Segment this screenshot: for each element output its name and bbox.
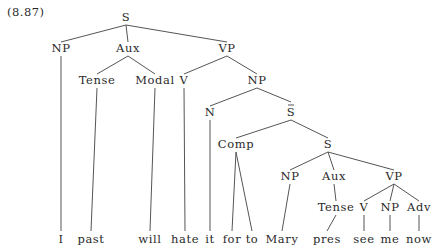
tree-edge [232,152,236,231]
tree-edge [290,152,328,170]
tree-node-modal: Modal [135,73,175,87]
tree-edge [257,88,291,102]
tree-node-adv: Adv [406,200,431,214]
leaf-word: pres [313,232,341,246]
syntax-tree: SNPAuxVPTenseModalVNPNSCompSNPAuxVPTense… [0,0,441,252]
tree-node-vp: VP [217,41,235,55]
tree-edge [150,88,155,231]
leaf-word: to [246,232,259,246]
leaf-word: I [58,232,63,246]
tree-edge [97,56,128,74]
tree-edge [210,88,257,106]
tree-edge [364,184,394,201]
tree-node-np: NP [280,169,299,183]
tree-edge [328,152,334,170]
tree-edge [227,56,257,74]
tree-node-np: NP [247,73,266,87]
tree-node-np: NP [380,200,399,214]
tree-node-np: NP [51,41,70,55]
tree-edge [61,25,126,42]
leaf-word: will [138,232,161,246]
tree-leaves: IpastwillhateitfortoMarypresseemenow [58,232,432,246]
tree-node-comp: Comp [218,137,254,151]
tree-edge [291,120,328,138]
tree-node-v: V [179,73,189,87]
tree-edge [236,152,252,231]
tree-edge [184,56,227,74]
leaf-word: me [381,232,400,246]
tree-node-v: V [359,200,369,214]
tree-node-vp: VP [384,169,402,183]
tree-node-tense: Tense [318,200,355,214]
tree-edge [282,184,290,231]
tree-nodes: SNPAuxVPTenseModalVNPNSCompSNPAuxVPTense… [51,10,430,214]
tree-node-s-bar: S [287,105,295,119]
tree-edge [184,88,185,231]
tree-edge [327,215,336,231]
tree-node-s: S [122,10,130,24]
leaf-word: hate [171,232,199,246]
tree-node-tense: Tense [79,73,116,87]
tree-edge [236,120,291,138]
tree-node-aux: Aux [321,169,346,183]
tree-edge [328,152,394,170]
tree-edge [334,184,336,201]
leaf-word: see [353,232,374,246]
tree-edge [128,56,155,74]
leaf-word: now [406,232,432,246]
tree-edge [390,184,394,201]
tree-edge [126,25,128,42]
tree-edge [91,88,97,231]
tree-node-aux: Aux [115,41,140,55]
leaf-word: past [77,232,104,246]
tree-edge [126,25,227,42]
leaf-word: for [223,232,241,246]
tree-node-n: N [205,105,216,119]
tree-edge [394,184,419,201]
leaf-word: it [205,232,215,246]
tree-node-s: S [324,137,332,151]
leaf-word: Mary [265,232,298,246]
